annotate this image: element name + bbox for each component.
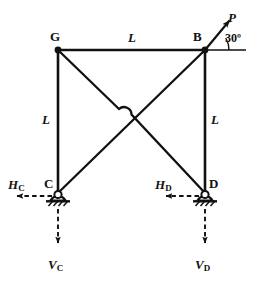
pin-support-C-pin (54, 191, 61, 198)
load-label-P: P (228, 11, 236, 24)
reaction-label-VD: VD (195, 258, 210, 273)
reaction-subscript-HC: C (18, 183, 25, 193)
dimension-label-left-height: L (42, 113, 50, 126)
joint-label-D: D (209, 177, 218, 190)
joint-label-G: G (50, 30, 60, 43)
reaction-label-HC: HC (8, 178, 25, 193)
reaction-label-VC: VC (48, 258, 63, 273)
pin-support-C (46, 191, 70, 206)
pin-support-D (193, 191, 217, 206)
angle-label-30deg: 30º (225, 32, 241, 44)
reaction-label-HD: HD (155, 178, 172, 193)
truss-diagram: G B C D L L L P 30º HC VC HD VD (0, 0, 262, 283)
dimension-label-top-span: L (128, 31, 136, 44)
joint-dot-G (55, 47, 62, 54)
reaction-subscript-VD: D (204, 263, 211, 273)
reaction-subscript-VC: C (57, 263, 64, 273)
dimension-label-right-height: L (211, 113, 219, 126)
reaction-symbol-VD: V (195, 257, 204, 272)
reaction-symbol-VC: V (48, 257, 57, 272)
joint-label-B: B (193, 30, 202, 43)
joint-label-C: C (44, 177, 53, 190)
pin-support-D-pin (201, 191, 208, 198)
reaction-subscript-HD: D (165, 183, 172, 193)
reaction-symbol-HD: H (155, 177, 165, 192)
reaction-symbol-HC: H (8, 177, 18, 192)
